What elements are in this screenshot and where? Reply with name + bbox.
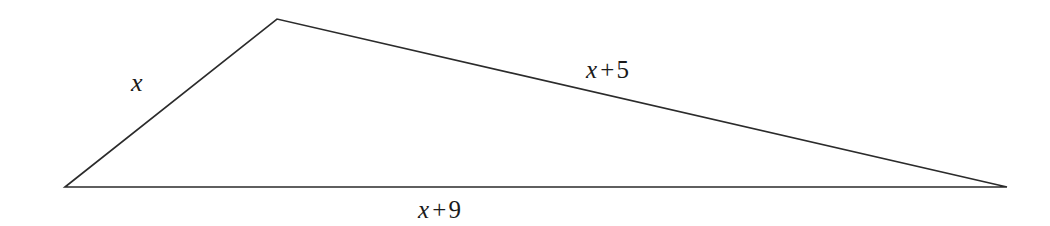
- triangle-shape: [0, 0, 1050, 226]
- triangle-figure: x x+5 x+9: [0, 0, 1050, 226]
- base-side-label: x+9: [418, 197, 461, 222]
- left-side-label: x: [131, 70, 143, 96]
- triangle-outline: [65, 19, 1007, 187]
- right-side-label: x+5: [586, 57, 629, 82]
- base-side-constant: 9: [449, 196, 462, 223]
- right-side-operator: +: [597, 56, 616, 83]
- base-side-operator: +: [429, 196, 448, 223]
- right-side-variable: x: [586, 56, 597, 83]
- right-side-constant: 5: [617, 56, 630, 83]
- base-side-variable: x: [418, 196, 429, 223]
- left-side-variable: x: [131, 68, 143, 97]
